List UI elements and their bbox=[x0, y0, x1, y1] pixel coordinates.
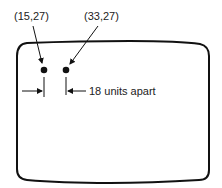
screen-frame bbox=[17, 41, 209, 183]
distance-label: 18 units apart bbox=[89, 85, 156, 97]
point-label-2: (33,27) bbox=[84, 10, 119, 22]
diagram-canvas: (15,27) (33,27) 18 units apart bbox=[0, 0, 222, 188]
point-label-1: (15,27) bbox=[14, 10, 49, 22]
point-dot-1 bbox=[41, 67, 48, 74]
point-dot-2 bbox=[63, 67, 70, 74]
pointer-arrow-1 bbox=[33, 26, 42, 63]
pointer-arrow-2 bbox=[70, 26, 98, 64]
